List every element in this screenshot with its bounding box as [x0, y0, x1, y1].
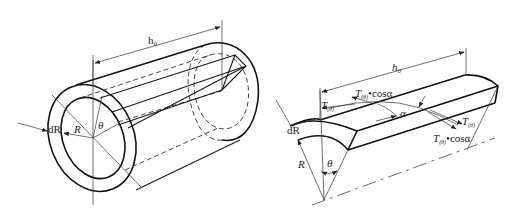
wedge-far-radial	[467, 86, 498, 150]
inner-bottom-hidden	[125, 128, 218, 170]
label-theta-left: θ	[98, 119, 104, 131]
label-alpha: α	[400, 107, 406, 119]
radial-line-1	[93, 96, 102, 138]
T-cos-right-arrow	[428, 112, 456, 129]
wedge-line-4	[128, 66, 246, 128]
wedge-R-arrow	[298, 140, 324, 200]
wedge-axis-centerline	[312, 138, 495, 205]
label-T-left: T(θ)	[321, 99, 334, 113]
cylinder-figure: h₀ dR R θ	[18, 20, 258, 205]
bottom-silhouette	[136, 140, 240, 190]
wedge-figure: h₀ T(θ)•cosα T(θ) α T(θ) T(θ)•cosα dR R …	[276, 48, 498, 205]
dR-ext-line	[276, 100, 291, 126]
leader-arrow	[419, 96, 425, 107]
label-T-right: T(θ)	[462, 115, 475, 129]
wedge-far-end	[465, 75, 498, 103]
label-theta-right: θ	[327, 157, 333, 169]
wedge-line-3	[118, 90, 222, 125]
label-dR-right: dR	[287, 124, 301, 136]
label-T-cos-right: T(θ)•cosα	[433, 132, 471, 146]
theta-arc	[322, 171, 337, 173]
label-dR-left: dR	[48, 123, 62, 135]
wedge-inner-arc	[298, 136, 348, 150]
label-R-left: R	[73, 123, 81, 135]
back-outer-hidden	[188, 45, 222, 140]
wedge-outer-arc-full	[290, 121, 357, 131]
wedge-top-edge-back	[320, 75, 465, 120]
h0-dim-line	[95, 27, 220, 63]
top-silhouette	[76, 45, 205, 85]
radial-line-2	[93, 124, 118, 138]
dR-arrow	[18, 123, 47, 131]
label-R-right: R	[297, 158, 305, 170]
label-T-cos-left: T(θ)•cosα	[355, 87, 393, 101]
label-h0-right: h₀	[392, 61, 402, 73]
diagram-canvas: h₀ dR R θ	[0, 0, 511, 224]
label-h0-left: h₀	[148, 34, 158, 46]
